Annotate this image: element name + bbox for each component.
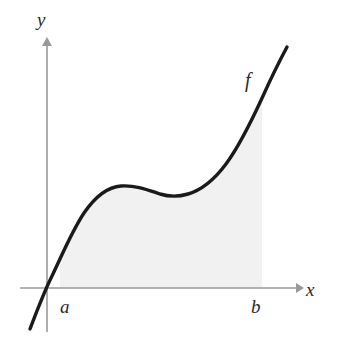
area-under-curve-figure: y x a b f <box>0 0 338 356</box>
y-axis-arrow-icon <box>42 37 52 46</box>
figure-canvas <box>0 0 338 356</box>
x-axis-arrow-icon <box>296 283 304 293</box>
curve-label-f: f <box>245 70 251 90</box>
x-axis-label: x <box>306 280 314 299</box>
y-axis-label: y <box>37 10 45 29</box>
upper-limit-label-b: b <box>251 297 261 316</box>
lower-limit-label-a: a <box>60 297 70 316</box>
